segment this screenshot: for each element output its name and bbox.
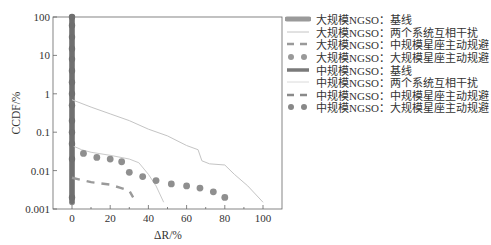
data-point [221,194,228,201]
series-layer [69,14,263,202]
data-point [197,185,204,192]
data-point [69,91,75,97]
dot-marker-swatch-icon [285,52,311,62]
x-tick-label: 100 [255,212,272,224]
y-tick-label: 0.01 [31,165,50,177]
data-point [69,141,75,147]
legend-item: 中规模NGSO：大规模星座主动规避 [285,101,491,114]
x-axis [72,205,263,209]
data-point [93,154,100,161]
data-point [118,158,125,165]
data-point [126,169,133,176]
x-axis-title: ΔR/% [154,229,182,241]
y-tick-label: 0.1 [36,126,50,138]
x-tick-label: 60 [181,212,193,224]
y-axis-title: CCDF/% [10,91,22,134]
x-tick-labels: 0 20 40 60 80 100 [69,212,272,224]
data-point [69,14,75,20]
data-point [69,34,75,40]
data-point [183,182,190,189]
thick-line-swatch-icon [285,65,311,75]
thin-line-swatch-icon [285,77,311,87]
data-point [69,45,75,51]
series-line [72,178,133,198]
data-point [80,150,87,157]
data-point [210,188,217,195]
data-point [168,181,175,188]
data-point [153,177,160,184]
dot-marker-swatch-icon [285,102,311,112]
data-point [107,156,114,163]
y-axis [53,17,57,209]
data-point [69,129,75,135]
thin-line-swatch-icon [285,27,311,37]
y-tick-label: 100 [34,11,51,23]
dashed-line-swatch-icon [285,39,311,49]
x-tick-label: 0 [69,212,75,224]
data-point [69,156,75,162]
y-tick-label: 1 [45,88,51,100]
series-line [72,100,263,202]
dashed-line-swatch-icon [285,90,311,100]
data-point [69,117,75,123]
data-point [69,102,75,108]
legend: 大规模NGSO：基线 大规模NGSO：两个系统互相干扰 大规模NGSO：中规模星… [285,13,491,114]
data-point [139,173,146,180]
data-point [69,56,75,62]
legend-label: 中规模NGSO：大规模星座主动规避 [316,99,489,115]
y-tick-label: 10 [39,49,51,61]
y-tick-label: 0.001 [25,203,50,215]
data-point [69,22,75,28]
data-point [69,67,75,73]
x-tick-label: 20 [105,212,117,224]
data-point [69,79,75,85]
y-tick-labels: 100 10 1 0.1 0.01 0.001 [25,11,50,215]
data-point [69,194,75,200]
x-tick-label: 40 [143,212,155,224]
x-tick-label: 80 [219,212,231,224]
thick-line-swatch-icon [285,14,311,24]
